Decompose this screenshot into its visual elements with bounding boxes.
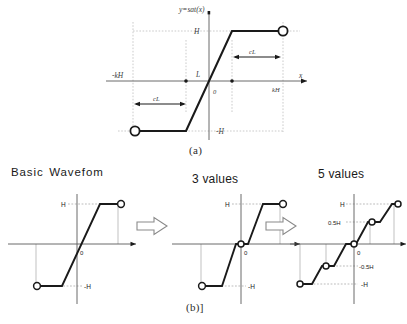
label-cl-left: cL xyxy=(153,95,160,102)
chart-5v-endpoint-open-4 xyxy=(369,219,375,225)
endpoint-open-circle-upper-right xyxy=(278,26,287,35)
chart-3v-midpoint-open xyxy=(238,241,244,247)
basic-endpoint-open-left xyxy=(34,283,41,290)
x-tick-dot-left xyxy=(184,79,188,83)
chart-3v-label-h-neg: -H xyxy=(248,283,255,290)
endpoint-open-circle-lower-left xyxy=(130,126,139,135)
chart-5v-endpoint-open-2 xyxy=(323,263,329,269)
chart-5v-endpoint-open-3 xyxy=(351,241,357,247)
label-kh-neg: -kH xyxy=(112,71,124,80)
basic-waveform-curve xyxy=(41,204,118,286)
cl-arrow-left-head-left xyxy=(134,102,140,106)
label-linear-region: L xyxy=(195,70,200,79)
cl-arrow-left-head-right xyxy=(180,102,186,106)
panel-b-5values-chart: H 0.5H 0 -0.5H -H xyxy=(288,180,407,320)
chart-5v-label-half-h-pos: 0.5H xyxy=(328,220,341,226)
basic-label-h-neg: -H xyxy=(84,283,91,290)
chart-5v-x-arrowhead xyxy=(401,242,407,246)
x-tick-dot-right xyxy=(230,79,234,83)
label-h-neg: -H xyxy=(216,127,224,136)
cl-arrow-right-head-right xyxy=(275,55,281,59)
transform-arrow-1 xyxy=(136,216,170,238)
title-5-values: 5 values xyxy=(318,167,364,181)
chart-5v-label-origin: 0 xyxy=(357,250,361,256)
chart-3v-endpoint-open-left xyxy=(199,283,206,290)
label-kh-pos: kH xyxy=(272,86,280,93)
chart-5v-label-h-neg: -H xyxy=(361,281,368,288)
basic-x-arrowhead xyxy=(131,242,137,246)
chart-5v-label-half-h-neg: -0.5H xyxy=(359,264,374,270)
chart-3v-label-h-pos: H xyxy=(225,201,230,208)
caption-a: (a) xyxy=(189,144,202,156)
figure-canvas: y=sat(x) x H -H -kH kH 0 L cL cL (a) Bas… xyxy=(0,0,407,324)
chart-5v-label-h-pos: H xyxy=(340,201,345,208)
chart-3v-endpoint-open-right xyxy=(280,201,287,208)
label-origin: 0 xyxy=(213,88,217,95)
panel-b-basic-chart: H -H 0 xyxy=(4,182,144,322)
basic-label-h-pos: H xyxy=(61,201,66,208)
right-arrow-icon xyxy=(137,218,167,235)
chart-3v-label-origin: 0 xyxy=(244,250,248,256)
caption-b: (b)] xyxy=(186,301,204,313)
basic-label-origin: 0 xyxy=(80,250,84,256)
chart-5v-endpoint-open-5 xyxy=(395,201,401,207)
panel-a-saturation-chart: y=sat(x) x H -H -kH kH 0 L cL cL xyxy=(0,0,407,150)
x-axis-label: x xyxy=(298,71,303,80)
basic-endpoint-open-right xyxy=(118,201,125,208)
cl-arrow-right-head-left xyxy=(233,55,239,59)
label-cl-right: cL xyxy=(249,48,256,55)
y-axis-arrowhead xyxy=(208,11,211,14)
y-axis-label: y=sat(x) xyxy=(178,5,205,14)
chart-5v-endpoint-open-1 xyxy=(297,281,303,287)
title-basic-waveform: Basic Wavefom xyxy=(11,166,104,178)
label-h-pos: H xyxy=(193,27,200,36)
